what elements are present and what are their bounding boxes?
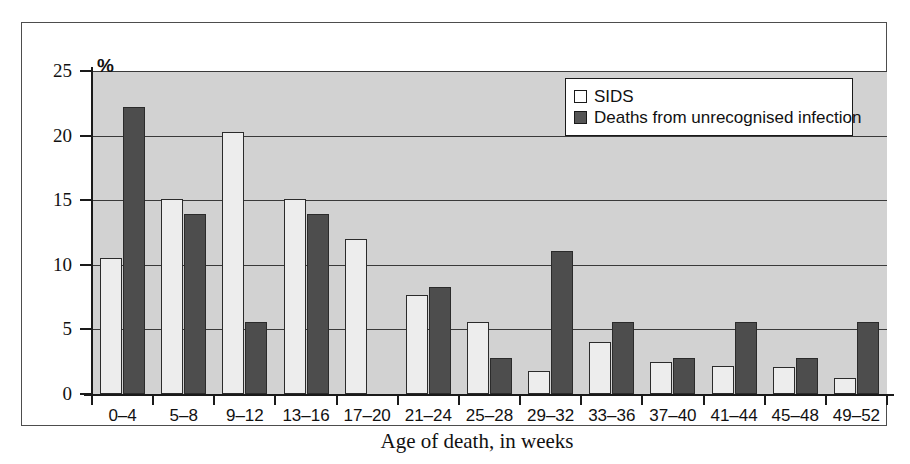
x-tick-mark xyxy=(274,396,276,405)
x-axis-title: Age of death, in weeks xyxy=(22,431,910,452)
legend-label-sids: SIDS xyxy=(594,88,634,105)
x-tick-label: 21–24 xyxy=(398,407,459,424)
x-tick-mark xyxy=(886,396,888,405)
bar-sids xyxy=(222,132,244,394)
x-tick-label: 41–44 xyxy=(704,407,765,424)
x-tick-label: 33–36 xyxy=(581,407,642,424)
bar-infection xyxy=(123,107,145,394)
figure-frame: % 0510152025 0–45–89–1213–1617–2021–2425… xyxy=(21,22,887,426)
x-tick-label: 29–32 xyxy=(520,407,581,424)
y-tick-mark xyxy=(80,199,92,201)
x-tick-label: 9–12 xyxy=(214,407,275,424)
y-tick-label: 20 xyxy=(22,126,72,145)
y-tick-mark xyxy=(80,264,92,266)
gridline xyxy=(92,200,887,201)
y-axis-line xyxy=(91,67,93,398)
x-tick-label: 0–4 xyxy=(92,407,153,424)
bar-sids xyxy=(834,378,856,394)
y-tick-label: 10 xyxy=(22,255,72,274)
bar-infection xyxy=(673,358,695,394)
bar-infection xyxy=(490,358,512,394)
legend-swatch-sids xyxy=(574,90,587,103)
bar-sids xyxy=(467,322,489,394)
y-tick-mark xyxy=(80,70,92,72)
x-tick-label: 5–8 xyxy=(153,407,214,424)
x-tick-mark xyxy=(458,396,460,405)
y-tick-mark xyxy=(80,135,92,137)
y-tick-label: 25 xyxy=(22,61,72,80)
x-tick-mark xyxy=(580,396,582,405)
bar-sids xyxy=(528,371,550,394)
bar-sids xyxy=(284,199,306,394)
x-axis-line xyxy=(84,394,894,396)
bar-infection xyxy=(184,214,206,394)
bar-sids xyxy=(589,342,611,394)
y-axis-unit-label: % xyxy=(97,56,114,75)
x-tick-label: 37–40 xyxy=(642,407,703,424)
bar-sids xyxy=(712,366,734,394)
gridline xyxy=(92,265,887,266)
bar-infection xyxy=(796,358,818,394)
x-tick-label: 17–20 xyxy=(337,407,398,424)
x-tick-mark xyxy=(703,396,705,405)
bar-infection xyxy=(857,322,879,394)
bar-infection xyxy=(245,322,267,394)
bar-infection xyxy=(307,214,329,394)
x-tick-label: 45–48 xyxy=(765,407,826,424)
x-tick-mark xyxy=(764,396,766,405)
bar-sids xyxy=(650,362,672,394)
bar-infection xyxy=(429,287,451,394)
x-tick-label: 25–28 xyxy=(459,407,520,424)
legend-label-infection: Deaths from unrecognised infection xyxy=(594,109,861,126)
legend-item-infection: Deaths from unrecognised infection xyxy=(574,107,844,127)
x-tick-mark xyxy=(825,396,827,405)
bar-infection xyxy=(612,322,634,394)
x-tick-mark xyxy=(641,396,643,405)
y-tick-mark xyxy=(80,328,92,330)
gridline xyxy=(92,329,887,330)
bar-sids xyxy=(161,199,183,394)
legend-swatch-infection xyxy=(574,111,587,124)
x-tick-mark xyxy=(519,396,521,405)
bar-infection xyxy=(551,251,573,394)
x-tick-label: 49–52 xyxy=(826,407,887,424)
x-tick-mark xyxy=(91,396,93,405)
bar-sids xyxy=(773,367,795,394)
legend-item-sids: SIDS xyxy=(574,86,844,106)
chart-legend: SIDS Deaths from unrecognised infection xyxy=(565,78,853,136)
y-tick-label: 15 xyxy=(22,190,72,209)
y-tick-label: 5 xyxy=(22,319,72,338)
x-tick-mark xyxy=(336,396,338,405)
y-tick-mark xyxy=(80,393,92,395)
x-tick-label: 13–16 xyxy=(275,407,336,424)
x-tick-mark xyxy=(213,396,215,405)
y-tick-label: 0 xyxy=(22,384,72,403)
bar-sids xyxy=(406,295,428,394)
x-tick-mark xyxy=(397,396,399,405)
gridline xyxy=(92,71,887,72)
bar-infection xyxy=(735,322,757,394)
x-tick-mark xyxy=(152,396,154,405)
bar-sids xyxy=(100,258,122,394)
bar-sids xyxy=(345,239,367,394)
